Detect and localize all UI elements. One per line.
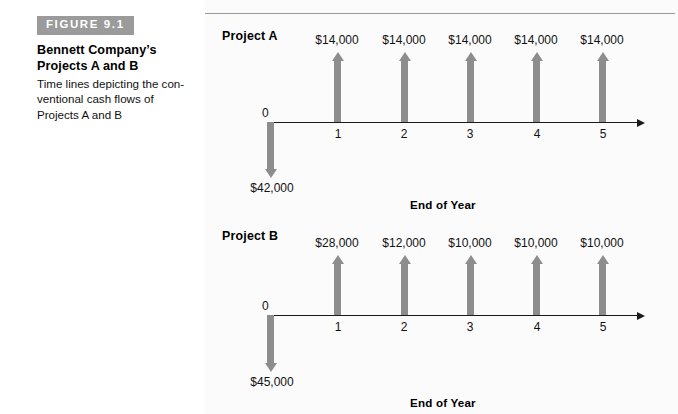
project-b-initial-outflow-arrow [267,315,274,372]
figure-root: FIGURE 9.1 Bennett Company’s Projects A … [0,0,678,414]
project-b-initial-outflow-label: $45,000 [237,375,307,389]
project-b-tick-label-2: 2 [396,320,412,334]
timeline-project-b: Project B $28,000 $12,000 $10,000 $10,00… [0,0,678,414]
project-b-inflow-label-year-3: $10,000 [435,236,505,250]
project-b-inflow-arrow-year-4 [533,255,540,315]
project-b-inflow-label-year-2: $12,000 [369,236,439,250]
project-b-inflow-arrow-year-3 [467,255,474,315]
project-b-axis-line [270,315,637,316]
project-b-zero-label: 0 [262,299,269,313]
project-b-tick-label-1: 1 [330,320,346,334]
project-b-axis-title: End of Year [410,396,476,409]
project-b-tick-label-5: 5 [595,320,611,334]
project-b-inflow-arrow-year-5 [599,255,606,315]
project-b-inflow-label-year-4: $10,000 [501,236,571,250]
project-b-inflow-arrow-year-1 [334,255,341,315]
project-b-inflow-label-year-1: $28,000 [302,236,372,250]
project-b-axis-arrowhead-icon [637,312,645,320]
project-b-inflow-arrow-year-2 [401,255,408,315]
project-b-inflow-label-year-5: $10,000 [567,236,637,250]
project-b-label: Project B [222,229,278,243]
project-b-tick-label-3: 3 [462,320,478,334]
project-b-tick-label-4: 4 [529,320,545,334]
